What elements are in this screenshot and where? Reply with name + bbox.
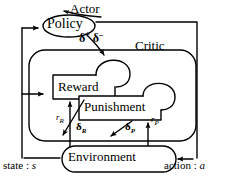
- action-text: action :: [164, 159, 199, 171]
- r-punishment-subscript: P: [155, 119, 159, 127]
- state-variable: s: [32, 159, 36, 171]
- delta-reward-subscript: R: [82, 127, 87, 135]
- action-variable: a: [199, 159, 205, 171]
- critic-label: Critic: [135, 39, 165, 52]
- policy-label: Policy: [47, 17, 83, 31]
- reward-label: Reward: [58, 80, 98, 93]
- state-label: state : s: [3, 160, 36, 171]
- punishment-signal-label: rP: [151, 115, 159, 127]
- delta-reward-label: δR: [76, 121, 86, 135]
- environment-label: Environment: [68, 150, 136, 163]
- delta-punishment-subscript: P: [131, 127, 135, 135]
- actor-label: Actor: [70, 2, 100, 15]
- delta-plus-minus-label: δ+ δ–: [79, 31, 103, 44]
- punishment-label: Punishment: [84, 100, 145, 113]
- reward-signal-label: rR: [56, 113, 64, 125]
- r-reward-subscript: R: [60, 117, 64, 125]
- diagram-canvas: Actor Policy Critic Reward Punishment En…: [0, 0, 227, 177]
- action-label: action : a: [164, 160, 205, 171]
- delta-minus-superscript: –: [99, 30, 103, 39]
- delta-punishment-label: δP: [125, 121, 135, 135]
- state-text: state :: [3, 159, 32, 171]
